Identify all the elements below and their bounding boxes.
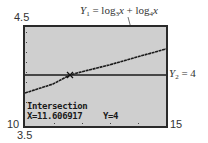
- y1-curve: [25, 49, 166, 93]
- calculator-screen: Intersection X=11.606917 Y=4: [23, 25, 168, 128]
- status-y-value: Y=4: [103, 112, 118, 121]
- x-tick-marks: [54, 123, 139, 124]
- status-intersection: Intersection: [27, 102, 87, 111]
- status-x-value: X=11.606917: [27, 112, 82, 121]
